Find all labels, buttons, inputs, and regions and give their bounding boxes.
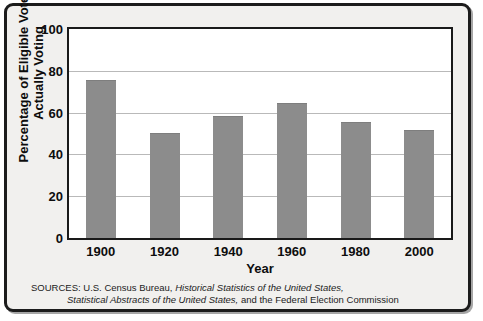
y-axis-title-line-1: Percentage of Eligible Voters <box>16 0 31 173</box>
bar <box>213 116 243 238</box>
x-tick-label: 2000 <box>387 244 451 259</box>
x-axis-ticks: 190019201940196019802000 <box>67 244 453 262</box>
sources-line-2-plain: and the Federal Election Commission <box>238 294 399 305</box>
y-tick-label: 20 <box>29 190 63 203</box>
sources-note: SOURCES: U.S. Census Bureau, Historical … <box>31 282 451 305</box>
bar <box>277 103 307 238</box>
x-tick-label: 1960 <box>260 244 324 259</box>
bar <box>404 130 434 238</box>
sources-line-1: SOURCES: U.S. Census Bureau, Historical … <box>31 282 451 294</box>
x-tick-label: 1980 <box>324 244 388 259</box>
y-tick-label: 0 <box>29 232 63 245</box>
x-tick-label: 1900 <box>69 244 133 259</box>
sources-line-2-italic: Statistical Abstracts of the United Stat… <box>67 294 238 305</box>
bar <box>341 122 371 238</box>
x-axis-title: Year <box>67 261 453 276</box>
y-axis-title: Percentage of Eligible Voters Actually V… <box>16 0 46 173</box>
bar <box>86 80 116 238</box>
sources-line-2: Statistical Abstracts of the United Stat… <box>31 294 451 306</box>
x-tick-label: 1920 <box>133 244 197 259</box>
bars-container <box>69 29 451 238</box>
sources-label: SOURCES: <box>31 282 81 293</box>
bar <box>150 133 180 239</box>
bar-chart: 020406080100 Percentage of Eligible Vote… <box>7 6 468 309</box>
x-tick-label: 1940 <box>196 244 260 259</box>
y-axis-title-line-2: Actually Voting <box>31 0 46 173</box>
plot-area <box>67 27 453 240</box>
chart-figure-frame: 020406080100 Percentage of Eligible Vote… <box>4 3 471 312</box>
sources-line-1-plain: U.S. Census Bureau, <box>81 282 176 293</box>
sources-line-1-italic: Historical Statistics of the United Stat… <box>175 282 343 293</box>
